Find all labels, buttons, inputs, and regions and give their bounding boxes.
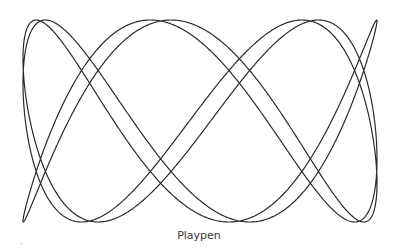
stray-dot: [21, 243, 22, 244]
lissajous-figure: [0, 0, 398, 250]
lissajous-curve: [23, 20, 377, 222]
figure-caption: Playpen: [0, 229, 398, 242]
